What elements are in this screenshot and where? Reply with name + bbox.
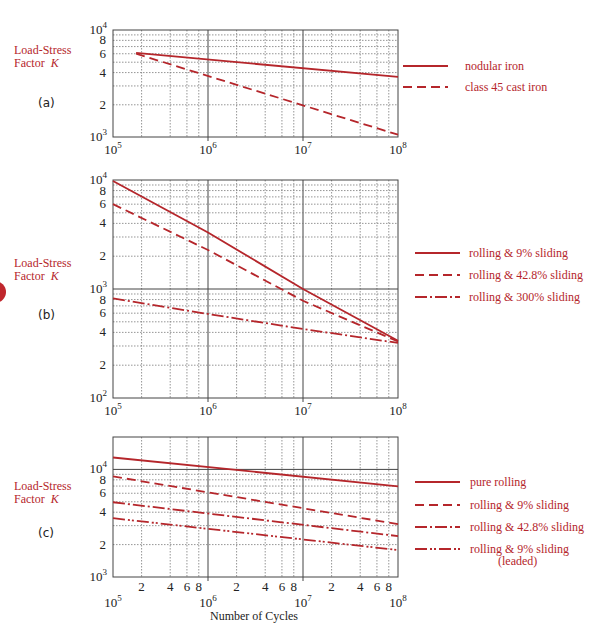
legend-item-300pct: rolling & 300% sliding [469, 291, 580, 304]
svg-text:105: 105 [104, 593, 122, 610]
legend-item-42pct: rolling & 42.8% sliding [469, 269, 583, 282]
svg-text:6: 6 [184, 579, 191, 594]
svg-text:6: 6 [100, 305, 107, 320]
svg-text:108: 108 [389, 140, 407, 157]
series-line [136, 54, 398, 135]
svg-text:8: 8 [386, 579, 393, 594]
svg-text:2: 2 [100, 97, 107, 112]
svg-text:4: 4 [100, 324, 107, 339]
svg-text:2: 2 [328, 579, 335, 594]
charts-canvas: 1032468104105106107108102246810324681041… [0, 0, 596, 631]
svg-text:103: 103 [90, 567, 108, 584]
series-line [136, 53, 398, 77]
legend-item-nodular-iron: nodular iron [465, 60, 524, 73]
svg-text:106: 106 [199, 140, 217, 157]
svg-text:2: 2 [233, 579, 240, 594]
series-line [113, 298, 398, 343]
series-line [113, 457, 398, 486]
svg-text:107: 107 [294, 593, 312, 610]
series-line [113, 502, 398, 536]
series-line [113, 476, 398, 524]
svg-text:4: 4 [100, 65, 107, 80]
svg-text:2: 2 [100, 248, 107, 263]
chart-b: 10224681032468104105106107108 [90, 170, 461, 418]
svg-text:6: 6 [100, 46, 107, 61]
svg-text:6: 6 [374, 579, 381, 594]
svg-text:2: 2 [100, 537, 107, 552]
legend-item-42pct: rolling & 42.8% sliding [470, 521, 584, 534]
svg-text:4: 4 [100, 215, 107, 230]
svg-text:4: 4 [357, 579, 364, 594]
svg-text:108: 108 [389, 401, 407, 418]
svg-text:105: 105 [104, 401, 122, 418]
svg-text:107: 107 [294, 140, 312, 157]
legend-item-pure-rolling: pure rolling [470, 476, 526, 489]
svg-text:8: 8 [196, 579, 203, 594]
legend-item-leaded-note: (leaded) [498, 555, 537, 568]
svg-text:105: 105 [104, 140, 122, 157]
x-axis-label: Number of Cycles [210, 609, 298, 624]
svg-text:4: 4 [262, 579, 269, 594]
svg-text:2: 2 [100, 357, 107, 372]
series-line [113, 181, 398, 341]
series-line [113, 518, 398, 550]
legend-item-9pct: rolling & 9% sliding [469, 247, 568, 260]
chart-c: 1032468104105246810624681072468108 [90, 437, 461, 610]
svg-text:107: 107 [294, 401, 312, 418]
svg-text:2: 2 [138, 579, 145, 594]
svg-text:6: 6 [279, 579, 286, 594]
svg-text:108: 108 [389, 593, 407, 610]
svg-text:6: 6 [100, 485, 107, 500]
chart-a: 1032468104105106107108 [90, 20, 449, 157]
svg-text:4: 4 [100, 504, 107, 519]
legend-item-9pct: rolling & 9% sliding [470, 499, 569, 512]
svg-text:8: 8 [291, 579, 298, 594]
svg-text:106: 106 [199, 593, 217, 610]
legend-item-class45: class 45 cast iron [465, 81, 547, 94]
svg-text:106: 106 [199, 401, 217, 418]
svg-text:6: 6 [100, 196, 107, 211]
svg-text:4: 4 [167, 579, 174, 594]
